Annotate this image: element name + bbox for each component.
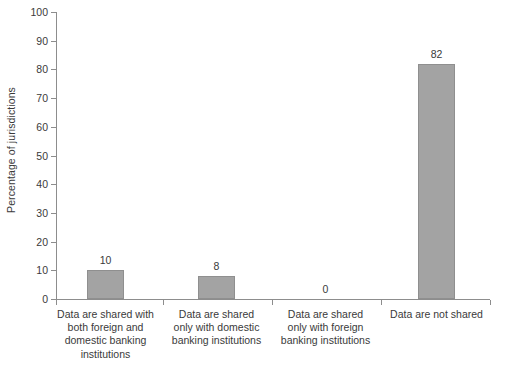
x-axis-line (56, 299, 490, 300)
y-axis-tick-label: 20 (4, 236, 48, 248)
category-label-line: Data are shared (163, 308, 271, 321)
y-axis-tick (51, 184, 56, 185)
category-label-line: both foreign and (52, 321, 160, 334)
x-axis-category-label: Data are sharedonly with domesticbanking… (163, 308, 271, 348)
y-axis-tick-label: 70 (4, 92, 48, 104)
y-axis-tick (51, 12, 56, 13)
y-axis-tick-label: 30 (4, 207, 48, 219)
category-label-line: Data are shared (272, 308, 380, 321)
y-axis-tick (51, 127, 56, 128)
y-axis-tick-label: 40 (4, 178, 48, 190)
y-axis-tick (51, 270, 56, 271)
bar-value-label: 10 (66, 254, 146, 266)
x-axis-tick (272, 300, 273, 305)
y-axis-tick-label: 10 (4, 264, 48, 276)
category-label-line: Data are shared with (52, 308, 160, 321)
bar-value-label: 8 (177, 260, 257, 272)
category-label-line: only with domestic (163, 321, 271, 334)
bar-value-label: 82 (397, 48, 477, 60)
x-axis-tick (163, 300, 164, 305)
y-axis-tick-label: 80 (4, 63, 48, 75)
y-axis-line (56, 12, 57, 300)
bar (87, 270, 124, 299)
y-axis-tick (51, 98, 56, 99)
y-axis-tick (51, 41, 56, 42)
bar (198, 276, 235, 299)
x-axis-category-label: Data are sharedonly with foreignbanking … (272, 308, 380, 348)
category-label-line: banking institutions (163, 334, 271, 347)
y-axis-tick (51, 156, 56, 157)
y-axis-tick-label: 100 (4, 6, 48, 18)
category-label-line: domestic banking (52, 334, 160, 347)
y-axis-tick-label: 60 (4, 121, 48, 133)
y-axis-tick (51, 69, 56, 70)
bar-value-label: 0 (286, 283, 366, 295)
bar-chart-figure: Percentage of jurisdictions 010203040506… (0, 0, 505, 365)
y-axis-tick (51, 242, 56, 243)
category-label-line: Data are not shared (383, 308, 491, 321)
x-axis-category-label: Data are shared withboth foreign anddome… (52, 308, 160, 361)
x-axis-tick (490, 300, 491, 305)
y-axis-tick-label: 50 (4, 150, 48, 162)
x-axis-tick (56, 300, 57, 305)
y-axis-tick-labels: 0102030405060708090100 (0, 0, 48, 365)
category-label-line: institutions (52, 348, 160, 361)
y-axis-tick (51, 213, 56, 214)
category-label-line: banking institutions (272, 334, 380, 347)
x-axis-tick (381, 300, 382, 305)
category-label-line: only with foreign (272, 321, 380, 334)
x-axis-category-label: Data are not shared (383, 308, 491, 321)
bar (418, 64, 455, 299)
y-axis-tick-label: 90 (4, 35, 48, 47)
y-axis-tick-label: 0 (4, 293, 48, 305)
